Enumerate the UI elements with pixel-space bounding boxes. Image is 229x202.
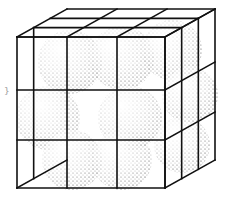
side-mark: } (4, 86, 10, 96)
sphere-packing-figure: } (0, 0, 229, 202)
cubic-lattice-drawing (0, 0, 229, 202)
sphere-highlight (92, 130, 152, 190)
